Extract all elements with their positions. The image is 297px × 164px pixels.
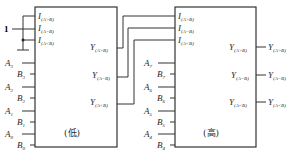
svg-text:A4: A4 [143,129,153,140]
svg-text:B5: B5 [157,117,166,128]
svg-text:Y(A=B): Y(A=B) [268,70,286,81]
svg-text:Y(A>B): Y(A>B) [268,42,286,53]
svg-text:A0: A0 [4,129,14,140]
comparator-cascade-diagram: 1 I(A>B) I(A=B) I(A<B) A3 B3 A2 B2 A1 B1… [0,0,297,164]
svg-text:B6: B6 [157,93,166,104]
svg-text:Y(A<B): Y(A<B) [268,97,286,108]
constant-one-label: 1 [4,24,9,34]
low-cascade-input-wiring [12,16,35,50]
low-cascade-input-labels: I(A>B) I(A=B) I(A<B) [37,11,54,46]
svg-text:A3: A3 [4,58,14,69]
low-chip-label: (低) [64,127,80,138]
svg-text:B2: B2 [17,93,26,104]
svg-text:A6: A6 [143,82,153,93]
svg-text:B0: B0 [17,140,26,151]
svg-text:B3: B3 [17,69,26,80]
final-outputs: Y(A>B) Y(A=B) Y(A<B) [256,42,286,108]
svg-text:A5: A5 [143,106,153,117]
svg-text:B7: B7 [157,69,166,80]
svg-text:A1: A1 [4,106,13,117]
svg-text:B1: B1 [17,117,25,128]
high-cascade-input-labels: I(A>B) I(A=B) I(A<B) [177,11,194,46]
high-chip-label: (高) [203,127,219,138]
high-data-inputs: A7 B7 A6 B6 A5 B5 A4 B4 [143,58,175,151]
svg-text:B4: B4 [157,140,166,151]
svg-text:A2: A2 [4,82,14,93]
svg-text:A7: A7 [143,58,153,69]
low-data-inputs: A3 B3 A2 B2 A1 B1 A0 B0 [4,58,35,151]
